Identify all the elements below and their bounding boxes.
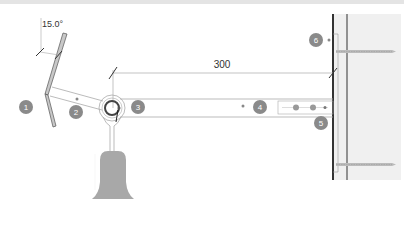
tilted-panel — [45, 33, 67, 127]
screw-top — [336, 50, 396, 53]
svg-text:2: 2 — [74, 108, 79, 117]
callout-6-leader-dot — [328, 39, 331, 42]
svg-text:3: 3 — [136, 103, 141, 112]
mounting-diagram: 300 15.0° 1 2 — [0, 0, 404, 228]
callout-5: 5 — [314, 116, 328, 130]
screw-bottom — [336, 163, 396, 166]
svg-text:15.0°: 15.0° — [42, 19, 64, 29]
lamp-shade — [92, 151, 134, 199]
svg-text:300: 300 — [214, 59, 231, 70]
wall — [333, 14, 401, 180]
callout-2: 2 — [69, 105, 83, 119]
callout-3: 3 — [131, 100, 145, 114]
pivot-joint — [99, 95, 125, 157]
arm — [120, 99, 333, 117]
svg-text:5: 5 — [319, 119, 324, 128]
callout-4: 4 — [253, 100, 267, 114]
svg-text:6: 6 — [314, 36, 319, 45]
svg-text:4: 4 — [258, 103, 263, 112]
dimension-300: 300 — [109, 59, 337, 108]
svg-text:1: 1 — [24, 103, 29, 112]
callout-6: 6 — [309, 33, 323, 47]
callout-1: 1 — [19, 100, 33, 114]
